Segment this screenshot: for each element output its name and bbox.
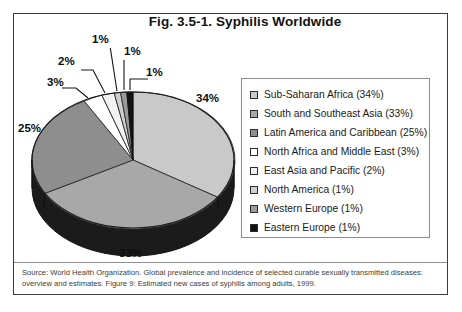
pie-label-33: 33% <box>119 247 142 259</box>
pie-label-3: 3% <box>47 76 64 88</box>
figure-container: Fig. 3.5-1. Syphilis Worldwide <box>0 0 462 312</box>
legend-item[interactable]: Western Europe (1%) <box>250 199 429 218</box>
legend-swatch-latin-america-caribbean <box>250 129 258 137</box>
legend-swatch-east-asia-pacific <box>250 167 258 175</box>
figure-title: Fig. 3.5-1. Syphilis Worldwide <box>120 14 370 29</box>
legend-label: South and Southeast Asia (33%) <box>264 108 413 119</box>
legend-swatch-eastern-europe <box>250 224 258 232</box>
pie-label-1-western-europe: 1% <box>124 45 141 57</box>
source-line-1: Source: World Health Organization. Globa… <box>22 268 432 279</box>
legend-label: Sub-Saharan Africa (34%) <box>264 89 384 100</box>
legend-item[interactable]: Latin America and Caribbean (25%) <box>250 123 429 142</box>
legend-item[interactable]: Sub-Saharan Africa (34%) <box>250 85 429 104</box>
source-line-2: overview and estimates. Figure 9: Estima… <box>22 279 432 290</box>
source-note: Source: World Health Organization. Globa… <box>22 268 432 289</box>
pie-label-1-eastern-europe: 1% <box>146 66 163 78</box>
legend-swatch-western-europe <box>250 205 258 213</box>
legend-item[interactable]: Eastern Europe (1%) <box>250 218 429 237</box>
legend-item[interactable]: North Africa and Middle East (3%) <box>250 142 429 161</box>
legend-item[interactable]: South and Southeast Asia (33%) <box>250 104 429 123</box>
legend-label: Western Europe (1%) <box>264 203 363 214</box>
legend-swatch-north-africa-middle-east <box>250 148 258 156</box>
pie-label-34: 34% <box>196 92 219 104</box>
legend-item[interactable]: North America (1%) <box>250 180 429 199</box>
pie-label-2: 2% <box>58 55 75 67</box>
legend-swatch-south-southeast-asia <box>250 110 258 118</box>
legend-swatch-north-america <box>250 186 258 194</box>
legend-label: North America (1%) <box>264 184 354 195</box>
legend-item[interactable]: East Asia and Pacific (2%) <box>250 161 429 180</box>
legend-label: Latin America and Caribbean (25%) <box>264 127 427 138</box>
chart-legend: Sub-Saharan Africa (34%) South and South… <box>241 78 430 238</box>
legend-label: North Africa and Middle East (3%) <box>264 146 419 157</box>
legend-swatch-sub-saharan-africa <box>250 91 258 99</box>
legend-label: Eastern Europe (1%) <box>264 222 360 233</box>
source-divider <box>14 262 447 263</box>
legend-label: East Asia and Pacific (2%) <box>264 165 385 176</box>
pie-label-25: 25% <box>18 122 41 134</box>
pie-label-1-north-america: 1% <box>92 33 109 45</box>
